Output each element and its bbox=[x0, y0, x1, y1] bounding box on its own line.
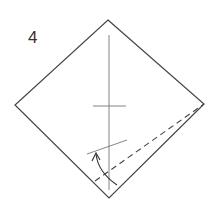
valley-fold-dashed-line bbox=[95, 104, 204, 181]
step-number: 4 bbox=[28, 29, 37, 46]
fold-target-line bbox=[87, 140, 127, 154]
paper-square bbox=[15, 20, 204, 198]
